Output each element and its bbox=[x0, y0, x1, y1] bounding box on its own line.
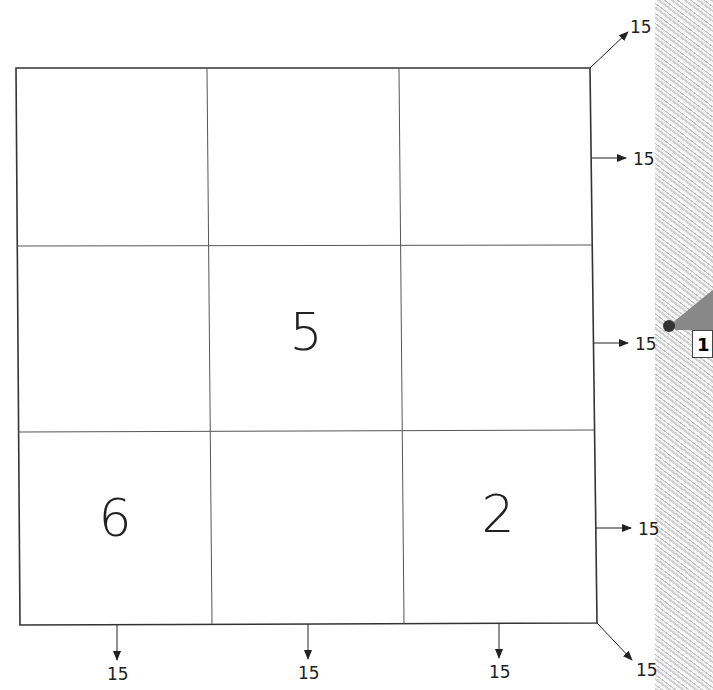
row-sum-2: 15 bbox=[635, 334, 657, 354]
column-sum-2: 15 bbox=[298, 663, 320, 683]
side-figure-tag: 1 bbox=[692, 330, 713, 358]
cell-r3c3: 2 bbox=[481, 484, 514, 544]
cell-r2c2: 5 bbox=[289, 302, 322, 362]
row-sum-1: 15 bbox=[633, 149, 655, 169]
diagonal-sum-bottom: 15 bbox=[636, 660, 658, 680]
grid-diagram bbox=[0, 0, 713, 690]
cell-r3c1: 6 bbox=[98, 488, 131, 548]
row-sum-3: 15 bbox=[638, 519, 660, 539]
column-sum-1: 15 bbox=[107, 664, 129, 684]
diagonal-sum-top: 15 bbox=[630, 17, 652, 37]
column-sum-3: 15 bbox=[489, 662, 511, 682]
